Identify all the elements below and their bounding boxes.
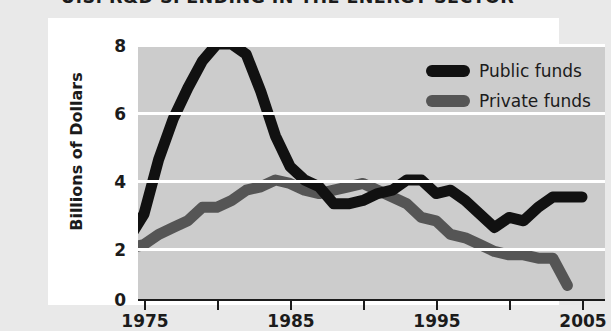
gridline-2 <box>138 248 605 251</box>
y-tick-label-6: 6 <box>100 104 126 124</box>
x-tick-1985 <box>290 301 292 310</box>
gridline-4 <box>138 180 605 183</box>
legend-swatch-private <box>426 95 470 107</box>
legend-label-private: Private funds <box>479 91 591 111</box>
x-tick-1975 <box>144 301 146 310</box>
private-funds-line <box>138 180 567 285</box>
y-tick-label-2: 2 <box>100 240 126 260</box>
y-tick-label-0: 0 <box>100 290 126 310</box>
x-axis-line <box>138 299 605 301</box>
y-axis-label: Billions of Dollars <box>67 42 86 262</box>
y-tick-label-8: 8 <box>100 36 126 56</box>
y-tick-label-4: 4 <box>100 172 126 192</box>
x-tick-1980 <box>217 301 219 310</box>
x-tick-label-2005: 2005 <box>548 311 611 331</box>
x-tick-2000 <box>509 301 511 310</box>
legend-swatch-public <box>426 65 470 77</box>
plot-card: Billions of Dollars 8 6 4 2 0 1975 1985 … <box>48 18 559 305</box>
x-tick-1995 <box>436 301 438 310</box>
x-tick-label-1995: 1995 <box>402 311 472 331</box>
x-tick-label-1985: 1985 <box>256 311 326 331</box>
x-tick-label-1975: 1975 <box>110 311 180 331</box>
legend-item-public: Public funds <box>426 56 606 86</box>
x-tick-1990 <box>363 301 365 310</box>
chart-title: U.S. R&D SPENDING IN THE ENERGY SECTOR <box>0 0 575 7</box>
gridline-8 <box>138 44 605 47</box>
legend-item-private: Private funds <box>426 86 606 116</box>
chart-legend: Public funds Private funds <box>426 56 606 116</box>
legend-label-public: Public funds <box>479 61 582 81</box>
x-tick-2005 <box>582 301 584 310</box>
